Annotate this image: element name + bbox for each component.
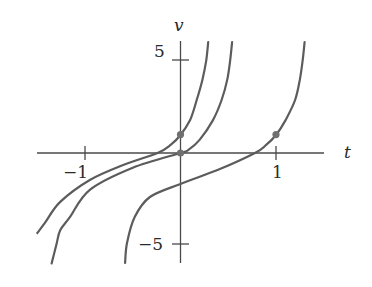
- slope-solution-chart: v t 5 −5 −1 1: [0, 0, 372, 287]
- marked-point-3: [272, 131, 279, 138]
- marked-point-1: [177, 131, 184, 138]
- tick-label-neg5: −5: [138, 234, 163, 254]
- tick-label-5: 5: [154, 41, 165, 61]
- marked-point-2: [177, 149, 184, 156]
- v-axis-label: v: [174, 15, 184, 35]
- tick-label-1: 1: [272, 162, 283, 182]
- t-axis-label: t: [344, 142, 351, 162]
- tick-label-neg1: −1: [63, 162, 88, 182]
